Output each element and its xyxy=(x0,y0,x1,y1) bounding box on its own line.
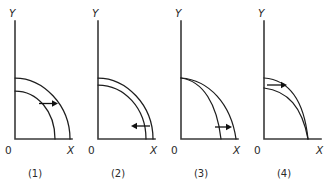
four-panel-diagram: Y 0 X (1) Y 0 X (2) xyxy=(0,0,336,189)
panel-3-origin-label: 0 xyxy=(171,144,178,156)
panel-4-arrow-head-right-icon xyxy=(281,82,287,88)
panel-1-axes xyxy=(15,21,72,139)
panel-3: Y 0 X (3) xyxy=(171,7,241,179)
panel-2-x-axis-label: X xyxy=(149,144,158,156)
panel-3-inner-curve xyxy=(181,78,221,139)
panel-1-outer-curve xyxy=(15,78,70,139)
panel-4-x-axis-label: X xyxy=(315,144,324,156)
panel-3-outer-curve xyxy=(181,78,236,139)
panel-2-origin-label: 0 xyxy=(88,144,95,156)
panel-3-caption: (3) xyxy=(194,168,208,179)
panel-4-caption: (4) xyxy=(277,168,291,179)
panel-2-y-axis-label: Y xyxy=(92,7,100,19)
panel-3-arrow-head-right-icon xyxy=(226,124,232,130)
panel-3-x-axis-label: X xyxy=(232,144,241,156)
panel-4-outer-curve xyxy=(264,78,308,139)
panel-1-y-axis-label: Y xyxy=(9,7,17,19)
panel-1-inner-curve xyxy=(15,91,55,139)
figure-container: Y 0 X (1) Y 0 X (2) xyxy=(0,0,336,189)
panel-1-caption: (1) xyxy=(28,168,42,179)
panel-1-origin-label: 0 xyxy=(5,144,12,156)
panel-3-y-axis-label: Y xyxy=(175,7,183,19)
panel-4-origin-label: 0 xyxy=(254,144,261,156)
panel-2-outer-curve xyxy=(98,78,153,139)
panel-2-axes xyxy=(98,21,155,139)
panel-4-y-axis-label: Y xyxy=(258,7,266,19)
panel-2-arrow-head-left-icon xyxy=(131,123,137,129)
panel-1: Y 0 X (1) xyxy=(5,7,75,179)
panel-1-x-axis-label: X xyxy=(66,144,75,156)
panel-2: Y 0 X (2) xyxy=(88,7,158,179)
panel-4-inner-curve xyxy=(264,88,308,139)
panel-2-caption: (2) xyxy=(111,168,125,179)
panel-4: Y 0 X (4) xyxy=(254,7,324,179)
panel-2-inner-curve xyxy=(98,85,146,139)
